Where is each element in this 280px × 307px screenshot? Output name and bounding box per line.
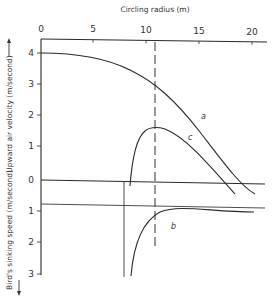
- y-tick-4: 4: [28, 48, 34, 58]
- y-axis-title-lower: Bird's sinking speed (m/second): [5, 170, 14, 290]
- arrow-up-icon: [7, 38, 11, 56]
- x-tick-20: 20: [246, 27, 258, 37]
- y-tick-0: 0: [28, 175, 34, 185]
- zero-line: [41, 180, 265, 184]
- x-tick-5: 5: [90, 24, 96, 34]
- y-sink-tick-1: 1: [28, 206, 34, 216]
- x-axis-title: Circling radius (m): [120, 5, 189, 14]
- y-sink-tick-2: 2: [28, 237, 34, 247]
- min-sink-line: [41, 204, 265, 208]
- x-tick-0: 0: [38, 24, 44, 34]
- x-tick-15: 15: [193, 26, 204, 36]
- curve-a: [41, 53, 255, 194]
- y-tick-1: 1: [28, 141, 34, 151]
- curve-b: [131, 208, 254, 276]
- soaring-chart: Circling radius (m) 0 5 10 15 20 4 3 2 1…: [0, 0, 280, 307]
- arrow-down-icon: [17, 280, 21, 296]
- curve-c-label: c: [188, 133, 193, 142]
- y-tick-3: 3: [28, 79, 34, 89]
- curve-c: [130, 128, 235, 194]
- y-axis-title-upper: Upward air velocity (m/second): [5, 55, 14, 172]
- x-axis: [41, 39, 267, 42]
- x-tick-10: 10: [140, 25, 152, 35]
- y-axis-upper-ticks: [37, 53, 41, 274]
- y-sink-tick-3: 3: [28, 269, 34, 279]
- curve-b-label: b: [171, 222, 176, 231]
- curve-a-label: a: [201, 112, 206, 121]
- y-tick-2: 2: [28, 110, 34, 120]
